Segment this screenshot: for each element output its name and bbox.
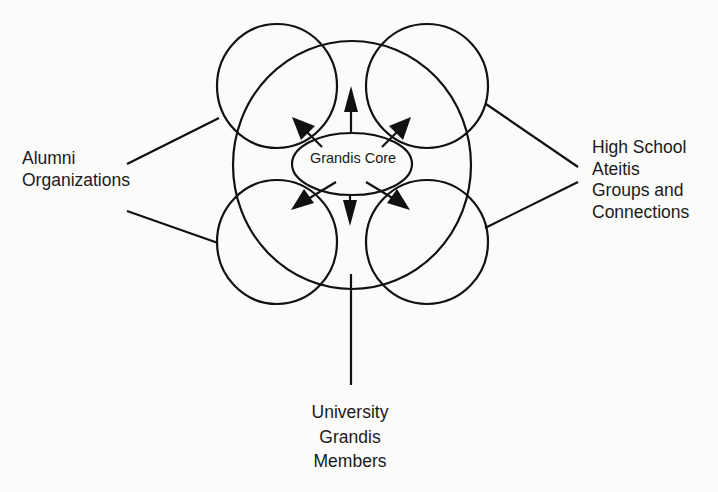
connector-right-lower	[485, 182, 578, 228]
label-bottom-line: Members	[298, 449, 402, 474]
label-right-line: Ateitis	[592, 159, 689, 181]
label-right-line: High School	[592, 137, 689, 159]
satellite-circle-bottom-right	[366, 180, 488, 304]
connector-left-lower	[127, 211, 218, 243]
core-label: Grandis Core	[292, 150, 414, 166]
diagram-canvas: Grandis Core Alumni Organizations High S…	[0, 0, 718, 492]
label-right-line: Connections	[592, 202, 689, 224]
arrow-up-icon	[344, 86, 358, 112]
label-right-line: Groups and	[592, 180, 689, 202]
satellite-circle-top-right	[366, 24, 488, 148]
label-bottom-line: University	[298, 400, 402, 425]
connector-left-upper	[127, 118, 219, 164]
label-high-school-groups: High School Ateitis Groups and Connectio…	[592, 137, 689, 223]
connector-right-upper	[486, 104, 578, 167]
label-bottom-line: Grandis	[298, 425, 402, 450]
label-left-line: Alumni	[22, 148, 130, 170]
label-alumni-organizations: Alumni Organizations	[22, 148, 130, 191]
arrow-down-left-icon	[291, 189, 314, 210]
label-left-line: Organizations	[22, 170, 130, 192]
arrow-down-right-shaft	[366, 182, 394, 199]
satellite-circle-top-left	[217, 24, 337, 148]
arrow-down-icon	[343, 200, 357, 226]
satellite-circle-bottom-left	[217, 180, 337, 304]
label-university-members: University Grandis Members	[298, 400, 402, 474]
